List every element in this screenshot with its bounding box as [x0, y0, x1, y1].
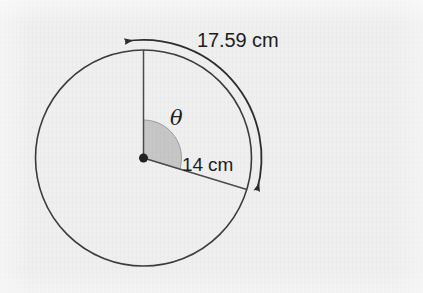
geometry-figure: 17.59 cm 14 cm θ — [0, 0, 423, 293]
radius-length-label: 14 cm — [182, 155, 233, 174]
circle-center-dot — [139, 154, 148, 163]
arc-length-label: 17.59 cm — [197, 30, 278, 50]
theta-angle-label: θ — [170, 108, 183, 129]
